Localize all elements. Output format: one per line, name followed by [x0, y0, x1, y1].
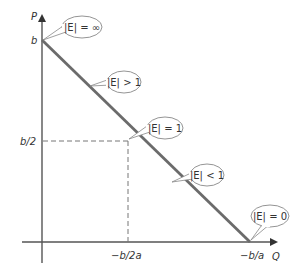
callout-elasticity-infinite: |E| = ∞	[43, 16, 102, 40]
svg-text:|E| > 1: |E| > 1	[107, 77, 141, 89]
callout-elasticity-unit: |E| = 1	[129, 117, 183, 139]
x-tick-neg-b-a: −b/a	[240, 250, 264, 261]
svg-text:|E| = 0: |E| = 0	[253, 211, 287, 223]
svg-text:|E| = ∞: |E| = ∞	[64, 22, 100, 34]
svg-text:|E| = 1: |E| = 1	[148, 123, 182, 135]
y-tick-b: b	[31, 35, 37, 46]
y-tick-b-half: b/2	[20, 136, 36, 147]
x-tick-neg-b-2a: −b/2a	[111, 250, 142, 261]
svg-text:|E| < 1: |E| < 1	[190, 170, 224, 182]
y-axis-label: P	[31, 11, 38, 22]
elasticity-diagram: P Q b b/2 −b/2a −b/a |E| = ∞ |E| > 1 |E|…	[0, 0, 295, 278]
callout-elasticity-elastic: |E| > 1	[90, 71, 141, 93]
x-axis-label: Q	[272, 251, 280, 262]
demand-line	[42, 40, 250, 242]
callout-elasticity-zero: |E| = 0	[251, 205, 289, 240]
